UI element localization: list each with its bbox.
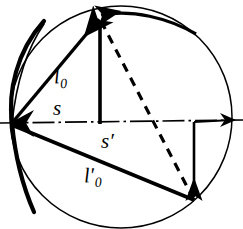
label-l-zero-prime-sub: 0 [94, 175, 102, 190]
label-l-zero: l0 [53, 66, 67, 92]
label-s-prime: s′ [101, 131, 114, 152]
label-l-zero-prime: l′0 [83, 165, 102, 191]
label-s-prime-mark: ′ [109, 129, 114, 153]
label-s: s [53, 98, 61, 119]
dashed-chord [101, 21, 194, 200]
label-l-zero-sub: 0 [60, 76, 68, 91]
label-s-prime-base: s [101, 129, 109, 153]
main-circle [10, 6, 232, 228]
label-s-base: s [53, 96, 61, 120]
diagram-canvas [0, 0, 243, 229]
optics-diagram-figure: l0 s s′ l′0 [0, 0, 243, 229]
